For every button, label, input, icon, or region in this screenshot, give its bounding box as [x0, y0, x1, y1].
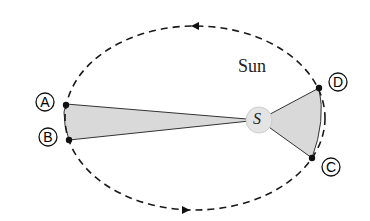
arrow-left-icon — [191, 22, 199, 30]
label-a: A — [38, 94, 52, 110]
point-a-dot — [63, 102, 69, 108]
label-b: B — [41, 129, 55, 145]
orbit-diagram — [0, 0, 370, 221]
label-c: C — [324, 159, 338, 175]
label-d: D — [331, 74, 345, 90]
point-b-dot — [66, 137, 72, 143]
sun-label: Sun — [238, 56, 266, 77]
point-d-dot — [316, 85, 322, 91]
arrow-right-icon — [182, 206, 190, 214]
sector-ab — [64, 104, 259, 140]
sun-symbol: S — [253, 110, 261, 128]
point-c-dot — [309, 155, 315, 161]
